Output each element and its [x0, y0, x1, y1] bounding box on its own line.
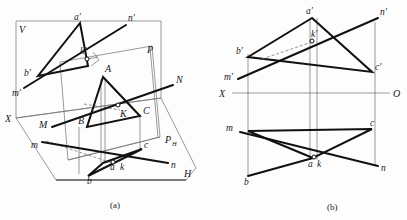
label-point-a-lower-b: a	[308, 159, 313, 169]
label-point-k-lower-b: k	[317, 159, 322, 169]
figure-captions: (a) (b)	[110, 200, 338, 212]
label-point-b-lower-b: b	[244, 177, 249, 187]
label-point-n-prime-a: n′	[128, 13, 136, 23]
diagram-b-labels: X O a′ b′ c′ k′ m′ n′ a k b c m n	[218, 6, 400, 187]
label-point-m-lower-a: m	[31, 140, 38, 150]
point-marker-k-prime-a	[85, 57, 89, 61]
label-plane-PH: P H	[164, 134, 177, 147]
label-plane-H: H	[183, 168, 192, 179]
label-point-m-prime-a: m′	[12, 88, 22, 98]
label-point-k-lower-a: k	[120, 162, 125, 172]
caption-b: (b)	[327, 202, 338, 212]
v-plane-outline	[16, 21, 161, 118]
diagram-b-group	[232, 18, 390, 176]
caption-a: (a)	[110, 200, 120, 210]
point-marker-k-prime-b	[310, 39, 314, 43]
label-plane-PH-sub: H	[171, 140, 177, 147]
label-point-b-prime-b: b′	[236, 46, 244, 56]
label-point-c-lower-a: c	[144, 140, 149, 150]
label-point-a-prime-a: a′	[74, 12, 82, 22]
label-point-K: K	[119, 108, 128, 119]
right-angle-mark-a	[91, 52, 99, 66]
label-point-m-prime-b: m′	[224, 72, 234, 82]
technical-drawing-svg: V H X P P H A B C K M N a′ b′ k′ m′ n′ a…	[0, 0, 407, 220]
label-point-M: M	[38, 119, 48, 130]
label-point-B: B	[78, 115, 84, 126]
label-plane-PH-main: P	[164, 134, 171, 145]
label-point-k-prime-b: k′	[311, 29, 318, 39]
label-point-a-lower-a: a	[110, 162, 115, 172]
line-b-edge-b	[248, 158, 313, 176]
label-point-a-prime-b: a′	[306, 6, 314, 16]
label-point-m-lower-b: m	[226, 123, 233, 133]
label-axis-X-a: X	[4, 113, 12, 124]
label-point-n-prime-b: n′	[380, 7, 388, 17]
figure-root: V H X P P H A B C K M N a′ b′ k′ m′ n′ a…	[0, 0, 407, 220]
k-prime-connector-a	[88, 57, 98, 59]
label-point-A: A	[104, 63, 112, 74]
label-point-k-prime-a: k′	[80, 46, 87, 56]
line-mn-v-projection-a	[24, 25, 126, 88]
label-axis-X-b: X	[218, 88, 226, 99]
diagram-a-labels: V H X P P H A B C K M N a′ b′ k′ m′ n′ a…	[4, 12, 192, 186]
label-point-c-lower-b: c	[370, 118, 375, 128]
label-point-c-prime-b: c′	[375, 62, 382, 72]
label-axis-O-b: O	[393, 88, 400, 99]
label-point-n-lower-a: n	[171, 160, 176, 170]
label-point-b-prime-a: b′	[24, 68, 32, 78]
diagram-a-group	[16, 21, 196, 180]
label-plane-P: P	[146, 44, 153, 55]
label-point-N: N	[175, 74, 184, 85]
label-plane-V: V	[19, 24, 27, 35]
label-point-n-lower-b: n	[381, 163, 386, 173]
label-point-b-lower-a: b	[87, 176, 92, 186]
point-marker-K-a	[116, 103, 120, 107]
label-point-C: C	[143, 105, 150, 116]
